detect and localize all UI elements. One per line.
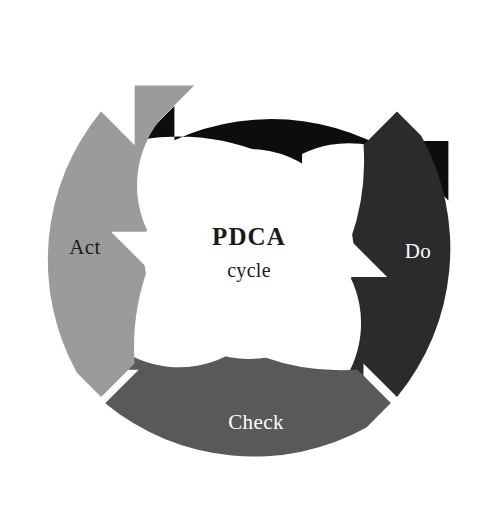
sector-act-label: Act xyxy=(69,235,101,259)
sector-check-label: Check xyxy=(228,410,284,434)
sector-plan-label: Plan xyxy=(230,72,269,96)
center-title: PDCA xyxy=(212,223,286,250)
pdca-cycle-svg: Plan Do Check Act PDCA cycle xyxy=(0,0,498,510)
sector-do-label: Do xyxy=(405,239,431,263)
center-subtitle: cycle xyxy=(227,259,271,282)
pdca-cycle-diagram: Plan Do Check Act PDCA cycle xyxy=(0,0,498,510)
center-hub xyxy=(144,149,354,359)
